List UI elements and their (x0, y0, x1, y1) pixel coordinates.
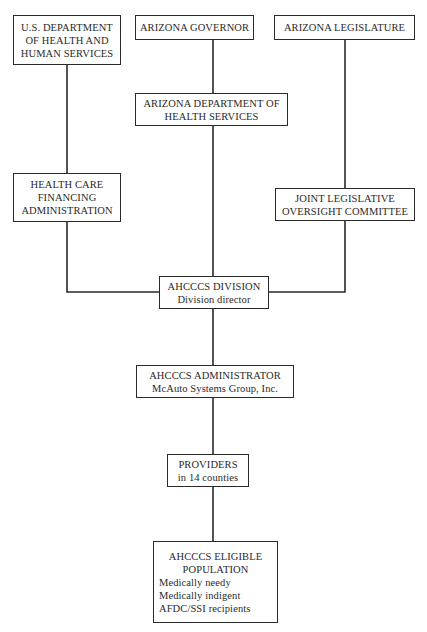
node-hcfa-line: HEALTH CARE (31, 178, 104, 191)
node-adhs-line: ARIZONA DEPARTMENT OF (143, 97, 279, 110)
node-division: AHCCCS DIVISION Division director (159, 276, 269, 309)
eligible-group-item: Medically needy (159, 576, 250, 589)
node-jloc-line: JOINT LEGISLATIVE (295, 192, 395, 205)
node-eligible-title: AHCCCS ELIGIBLE (169, 550, 262, 563)
node-eligible-population: AHCCCS ELIGIBLE POPULATION Medically nee… (153, 541, 278, 623)
node-administrator-line: AHCCCS ADMINISTRATOR (149, 369, 281, 382)
node-eligible-title: POPULATION (183, 563, 249, 576)
node-adhs-line: HEALTH SERVICES (165, 110, 259, 123)
node-hhs: U.S. DEPARTMENT OF HEALTH AND HUMAN SERV… (13, 15, 121, 65)
node-administrator: AHCCCS ADMINISTRATOR McAuto Systems Grou… (136, 365, 294, 398)
node-hcfa-line: FINANCING (38, 191, 97, 204)
node-administrator-line: McAuto Systems Group, Inc. (152, 382, 278, 395)
node-governor: ARIZONA GOVERNOR (135, 15, 254, 40)
node-hhs-line: U.S. DEPARTMENT (21, 21, 113, 34)
eligible-group-item: AFDC/SSI recipients (159, 602, 250, 615)
node-division-line: AHCCCS DIVISION (168, 280, 261, 293)
eligible-groups-list: Medically needy Medically indigent AFDC/… (154, 576, 250, 615)
connector-hcfa-division (67, 221, 159, 292)
node-division-line: Division director (177, 293, 250, 306)
node-governor-line: ARIZONA GOVERNOR (140, 21, 249, 34)
node-legislature-line: ARIZONA LEGISLATURE (284, 21, 405, 34)
connector-jloc-division (268, 220, 345, 292)
node-hhs-line: HUMAN SERVICES (21, 47, 113, 60)
node-jloc-line: OVERSIGHT COMMITTEE (282, 205, 408, 218)
node-adhs: ARIZONA DEPARTMENT OF HEALTH SERVICES (135, 93, 288, 126)
eligible-group-item: Medically indigent (159, 589, 250, 602)
node-hcfa-line: ADMINISTRATION (21, 204, 112, 217)
node-hhs-line: OF HEALTH AND (25, 34, 108, 47)
node-providers-line: PROVIDERS (178, 458, 237, 471)
node-jloc: JOINT LEGISLATIVE OVERSIGHT COMMITTEE (275, 188, 415, 221)
node-legislature: ARIZONA LEGISLATURE (274, 15, 415, 40)
node-providers: PROVIDERS in 14 counties (167, 454, 249, 487)
node-hcfa: HEALTH CARE FINANCING ADMINISTRATION (13, 173, 121, 222)
node-providers-line: in 14 counties (178, 471, 238, 484)
